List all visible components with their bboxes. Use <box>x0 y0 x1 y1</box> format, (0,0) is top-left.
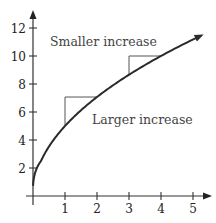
curve-line <box>33 36 201 186</box>
annotation-smaller-increase: Smaller increase <box>50 34 157 49</box>
y-tick-label: 6 <box>18 106 26 120</box>
y-tick-label: 8 <box>18 78 26 92</box>
y-tick-label: 4 <box>18 134 26 148</box>
y-tick-label: 2 <box>18 162 26 176</box>
x-tick-label: 4 <box>157 202 165 216</box>
x-axis-arrow-icon <box>203 193 212 200</box>
y-tick-label: 10 <box>11 50 26 64</box>
chart: 12345 24681012 Smaller increase Larger i… <box>0 0 216 223</box>
x-tick-label: 5 <box>189 202 197 216</box>
y-tick-label: 12 <box>11 22 26 36</box>
y-axis-arrow-icon <box>30 10 37 19</box>
x-tick-label: 1 <box>61 202 69 216</box>
x-tick-label: 2 <box>93 202 101 216</box>
annotation-larger-increase: Larger increase <box>92 112 193 127</box>
curve-arrow-icon <box>194 34 204 41</box>
x-tick-label: 3 <box>125 202 133 216</box>
